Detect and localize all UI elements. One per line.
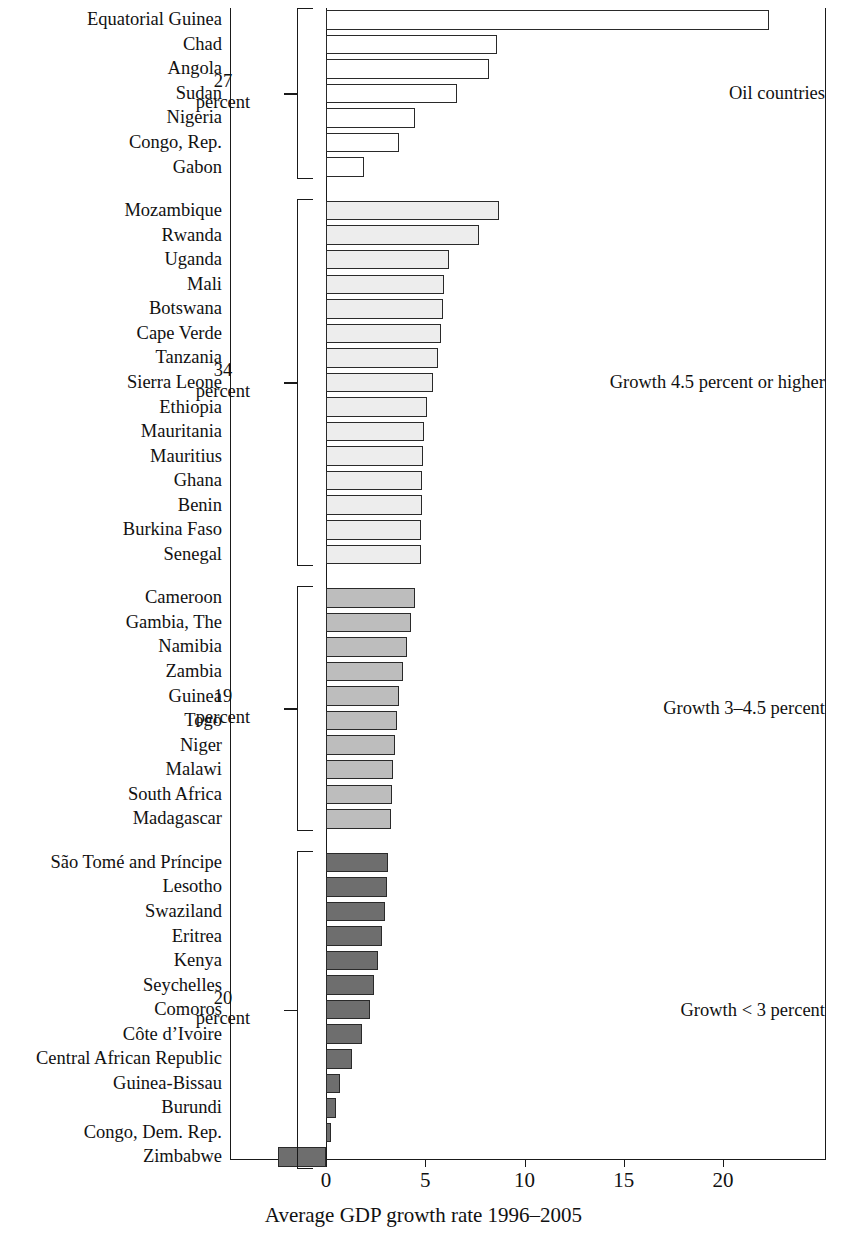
x-axis-tick <box>624 1159 625 1167</box>
x-axis-tick-label: 0 <box>301 1170 351 1191</box>
x-axis-tick <box>326 1159 327 1167</box>
x-axis-tick-label: 10 <box>500 1170 550 1191</box>
x-axis-title: Average GDP growth rate 1996–2005 <box>0 1205 847 1226</box>
x-axis-layer: 05101520 <box>0 0 847 1160</box>
x-axis-tick <box>723 1159 724 1167</box>
x-axis-tick-label: 5 <box>400 1170 450 1191</box>
gdp-growth-bar-chart: Equatorial GuineaChadAngolaSudanNigeriaC… <box>0 0 847 1237</box>
x-axis-tick-label: 20 <box>698 1170 748 1191</box>
x-axis-tick <box>425 1159 426 1167</box>
x-axis-tick-label: 15 <box>599 1170 649 1191</box>
x-axis-tick <box>525 1159 526 1167</box>
